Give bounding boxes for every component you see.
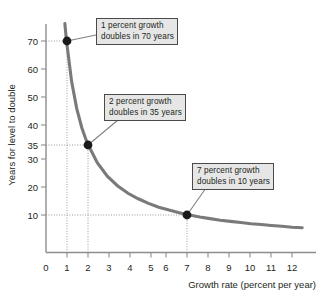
y-tick-label: 10 — [27, 210, 38, 221]
guide-lines — [46, 41, 187, 252]
y-axis-title: Years for level to double — [6, 84, 17, 186]
annotation-line-2: doubles in 35 years — [109, 108, 182, 119]
annotation-line-2: doubles in 10 years — [197, 177, 270, 188]
annotation-line-1: 1 percent growth — [101, 21, 174, 32]
x-tick-label: 5 — [148, 262, 153, 273]
y-tick-label: 30 — [27, 154, 38, 165]
doubling-time-curve — [65, 24, 302, 228]
y-axis-tick-labels: 70 60 50 40 35 30 20 10 — [27, 36, 38, 221]
y-tick-label: 35 — [27, 140, 38, 151]
y-tick-label: 60 — [27, 64, 38, 75]
x-tick-label: 4 — [127, 262, 132, 273]
data-point-7pct — [183, 211, 192, 220]
annotation-leader-lines — [67, 35, 206, 215]
annotation-box-7pct: 7 percent growth doubles in 10 years — [192, 163, 274, 190]
x-axis-tick-labels: 0 1 2 3 4 5 6 7 8 9 10 11 12 — [43, 262, 297, 273]
x-tick-label: 0 — [43, 262, 48, 273]
x-tick-label: 8 — [205, 262, 210, 273]
annotation-line-1: 7 percent growth — [197, 166, 270, 177]
x-axis-ticks — [67, 253, 292, 258]
y-tick-label: 20 — [27, 182, 38, 193]
x-tick-label: 11 — [266, 262, 276, 273]
annotation-line-1: 2 percent growth — [109, 97, 182, 108]
x-tick-label: 10 — [245, 262, 256, 273]
x-tick-label: 3 — [106, 262, 111, 273]
data-point-2pct — [84, 141, 93, 150]
chart-figure: 70 60 50 40 35 30 20 10 0 1 2 3 4 5 6 7 … — [0, 0, 324, 295]
x-tick-label: 9 — [226, 262, 231, 273]
x-tick-label: 6 — [163, 262, 168, 273]
x-axis-title: Growth rate (percent per year) — [188, 279, 316, 290]
x-tick-label: 2 — [85, 262, 90, 273]
y-tick-label: 40 — [27, 120, 38, 131]
annotation-box-1pct: 1 percent growth doubles in 70 years — [96, 18, 178, 45]
x-tick-label: 1 — [64, 262, 69, 273]
leader-line-1 — [67, 35, 96, 41]
y-tick-label: 70 — [27, 36, 38, 47]
annotation-box-2pct: 2 percent growth doubles in 35 years — [104, 94, 186, 121]
x-tick-label: 12 — [287, 262, 298, 273]
data-point-1pct — [63, 37, 72, 46]
annotation-line-2: doubles in 70 years — [101, 32, 174, 43]
leader-line-3 — [187, 188, 206, 215]
y-tick-label: 50 — [27, 92, 38, 103]
y-axis-ticks — [41, 41, 46, 215]
x-tick-label: 7 — [184, 262, 189, 273]
leader-line-2 — [88, 120, 118, 145]
